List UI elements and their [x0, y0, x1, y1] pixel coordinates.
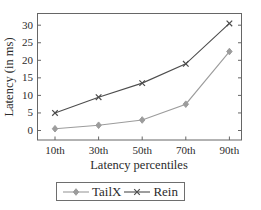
y-tick-label: 10 — [22, 89, 34, 101]
legend-item-tailx: TailX — [63, 184, 121, 200]
legend-label-rein: Rein — [153, 184, 178, 200]
tailx-diamond-marker — [52, 125, 57, 132]
x-axis-title: Latency percentiles — [90, 158, 188, 173]
y-tick-label: 15 — [22, 71, 34, 83]
rein-line-marker-icon — [124, 187, 150, 197]
y-tick-label: 0 — [28, 124, 34, 136]
rein-x-marker — [52, 110, 58, 116]
tailx-legend-diamond-marker — [73, 188, 78, 195]
rein-x-marker — [183, 61, 189, 67]
x-tick-label: 90th — [220, 144, 240, 156]
rein-x-marker — [139, 80, 145, 86]
y-tick-label: 5 — [28, 106, 34, 118]
y-tick-label: 25 — [22, 36, 34, 48]
rein-series-line — [55, 23, 229, 113]
x-tick-label: 30th — [89, 144, 109, 156]
x-tick-label: 70th — [176, 144, 196, 156]
chart-canvas: 05101520253010th30th50th70th90th — [0, 0, 261, 210]
tailx-line-marker-icon — [63, 187, 89, 197]
latency-percentile-line-chart: 05101520253010th30th50th70th90th Latency… — [0, 0, 261, 210]
legend-item-rein: Rein — [124, 184, 178, 200]
plot-frame — [38, 14, 242, 141]
y-tick-label: 20 — [22, 54, 34, 66]
rein-x-marker — [227, 21, 233, 27]
tailx-diamond-marker — [140, 117, 145, 124]
tailx-diamond-marker — [96, 122, 101, 129]
x-tick-label: 10th — [45, 144, 65, 156]
legend-label-tailx: TailX — [92, 184, 121, 200]
legend: TailX Rein — [56, 182, 185, 201]
y-axis-title: Latency (in ms) — [2, 37, 17, 116]
x-tick-label: 50th — [132, 144, 152, 156]
y-tick-label: 30 — [22, 19, 34, 31]
rein-x-marker — [96, 94, 102, 100]
